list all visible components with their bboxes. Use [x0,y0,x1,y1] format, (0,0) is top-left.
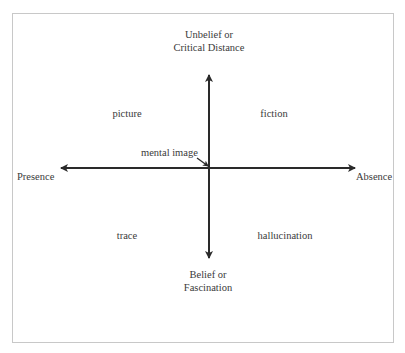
top-axis-label: Unbelief or Critical Distance [174,28,245,54]
quadrant-top-left-label: picture [112,107,141,120]
left-axis-label: Presence [17,170,54,183]
quadrant-top-right-label: fiction [260,107,287,120]
quadrant-bottom-left-label: trace [117,229,137,242]
top-axis-label-line2: Critical Distance [174,41,245,54]
mental-image-label: mental image [141,146,198,159]
mental-image-pointer-arrow [197,158,208,166]
top-axis-label-line1: Unbelief or [174,28,245,41]
bottom-axis-label-line2: Fascination [184,281,232,294]
bottom-axis-label: Belief or Fascination [184,268,232,294]
right-axis-label: Absence [356,170,392,183]
bottom-axis-label-line1: Belief or [184,268,232,281]
quadrant-bottom-right-label: hallucination [258,229,313,242]
